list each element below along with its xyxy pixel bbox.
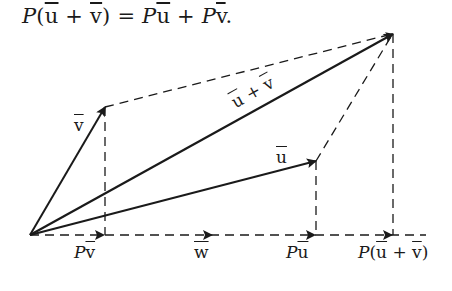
Psum-label-plus: + [387, 242, 412, 262]
Psum-label-u: u [376, 242, 387, 262]
u-vector-arrow [30, 161, 316, 235]
v-vector-arrow [30, 107, 105, 235]
parallelogram-right-side [316, 35, 392, 161]
Pv-label-P: P [74, 242, 85, 262]
v-label: v [74, 117, 84, 134]
w-label-text: w [194, 242, 209, 262]
Psum-label-v: v [412, 242, 422, 262]
Pu-label-P: P [286, 242, 297, 262]
vector-projection-diagram: P(u + v) = Pu + Pv. v [0, 0, 452, 291]
w-label: w [194, 244, 209, 261]
Psum-label-P: P [358, 242, 369, 262]
Pv-label-v: v [85, 242, 95, 262]
u-label: u [276, 149, 287, 166]
Pv-label: Pv [74, 244, 95, 261]
Psum-label: P(u + v) [358, 244, 428, 261]
Psum-label-paren: ) [422, 242, 429, 262]
u-label-text: u [276, 147, 287, 167]
u-plus-v-vector-arrow [30, 34, 393, 235]
Pu-label-u: u [297, 242, 308, 262]
v-label-text: v [74, 115, 84, 135]
Pu-label: Pu [286, 244, 308, 261]
